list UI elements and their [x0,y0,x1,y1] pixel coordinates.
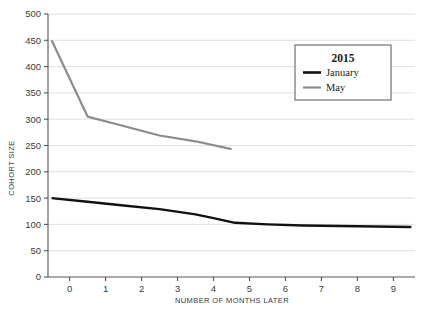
chart-container: 050100150200250300350400450500 012345678… [0,0,425,314]
x-tick-label: 8 [355,283,360,294]
y-tick-label: 200 [25,166,41,177]
y-tick-label: 450 [25,35,41,46]
y-axis-title: COHORT SIZE [7,140,16,195]
y-tick-label: 50 [30,245,41,256]
y-tick-label: 500 [25,8,41,19]
chart-legend: 2015 JanuaryMay [295,45,391,100]
x-tick-label: 7 [319,283,324,294]
legend-label-january: January [326,67,359,78]
y-tick-label: 250 [25,140,41,151]
x-tick-label: 3 [175,283,180,294]
x-tick-label: 9 [391,283,396,294]
legend-title: 2015 [332,52,355,64]
x-tick-label: 5 [247,283,252,294]
x-tick-label: 6 [283,283,288,294]
y-tick-label: 0 [36,271,41,282]
x-axis-title: NUMBER OF MONTHS LATER [175,296,289,305]
y-tick-label: 400 [25,61,41,72]
legend-label-may: May [326,82,346,93]
y-tick-label: 350 [25,87,41,98]
x-tick-label: 1 [103,283,108,294]
y-tick-label: 150 [25,193,41,204]
x-tick-label: 2 [139,283,144,294]
y-tick-label: 300 [25,114,41,125]
x-tick-label: 0 [67,283,72,294]
line-chart: 050100150200250300350400450500 012345678… [0,0,425,314]
x-tick-label: 4 [211,283,216,294]
y-tick-label: 100 [25,219,41,230]
